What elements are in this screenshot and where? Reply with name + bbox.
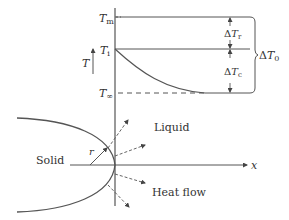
liquid-label: Liquid xyxy=(154,121,190,134)
tinf-label: T∞ xyxy=(99,87,113,101)
heat-flow-arrow-4 xyxy=(108,185,129,207)
dt0-brace xyxy=(250,17,258,93)
ti-label: Ti xyxy=(100,44,110,58)
tm-label: Tm xyxy=(99,12,114,26)
t-axis-label: T xyxy=(82,57,91,70)
heat-flow-arrow-3 xyxy=(115,174,145,183)
temperature-profile-curve xyxy=(115,49,205,93)
x-axis-label: x xyxy=(251,159,258,172)
radius-label: r xyxy=(89,146,95,157)
heat-flow-arrow-1 xyxy=(108,120,128,148)
solid-label: Solid xyxy=(36,154,64,167)
dtc-label: ΔTc xyxy=(224,66,242,79)
heat-flow-label: Heat flow xyxy=(152,186,207,199)
dtr-label: ΔTr xyxy=(224,28,242,41)
heat-flow-arrow-2 xyxy=(115,145,145,156)
dendrite-tip-undercooling-diagram: Tm Ti T∞ T ΔTr ΔTc ΔT0 x r Solid Liqui xyxy=(0,0,289,220)
dt0-label: ΔT0 xyxy=(259,49,279,63)
